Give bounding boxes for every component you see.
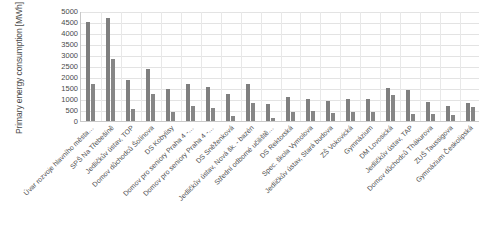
bar xyxy=(271,118,275,121)
bar xyxy=(411,114,415,121)
bar-group xyxy=(81,12,101,121)
bar-group xyxy=(101,12,121,121)
bar xyxy=(246,84,250,121)
y-tick-label: 1500 xyxy=(46,85,78,93)
bar xyxy=(451,115,455,121)
bar xyxy=(91,84,95,121)
bar-group xyxy=(380,12,400,121)
x-axis-tick-labels: Úvar rozvoje hlavního města…SPŠ Na Třebe… xyxy=(80,124,479,244)
bar xyxy=(151,94,155,122)
bar xyxy=(466,103,470,121)
bar xyxy=(391,95,395,121)
bar xyxy=(326,101,330,121)
bar-group xyxy=(460,12,480,121)
bar-group xyxy=(440,12,460,121)
bar xyxy=(146,69,150,121)
bar xyxy=(371,112,375,121)
y-axis-title: Primary energy consumption [MWh] xyxy=(14,4,24,134)
bar-group xyxy=(221,12,241,121)
bar xyxy=(266,104,270,121)
bar xyxy=(191,106,195,121)
bar xyxy=(331,113,335,121)
y-tick-label: 2500 xyxy=(46,63,78,71)
bar xyxy=(471,107,475,121)
y-tick-label: 2000 xyxy=(46,74,78,82)
y-tick-label: 500 xyxy=(46,107,78,115)
bar-group xyxy=(261,12,281,121)
y-tick-label: 4500 xyxy=(46,19,78,27)
y-tick-label: 4000 xyxy=(46,30,78,38)
bar xyxy=(106,18,110,121)
bar xyxy=(206,87,210,121)
y-tick-label: 1000 xyxy=(46,96,78,104)
bar-series-container xyxy=(81,12,479,121)
bar xyxy=(346,99,350,121)
bar xyxy=(166,89,170,121)
bar xyxy=(306,99,310,121)
y-tick-label: 0 xyxy=(46,118,78,126)
y-tick-label: 5000 xyxy=(46,8,78,16)
plot-area: 5000450040003500300025002000150010005000 xyxy=(80,12,479,122)
bar xyxy=(426,102,430,121)
bar xyxy=(231,116,235,122)
bar-group xyxy=(121,12,141,121)
bar-chart: Primary energy consumption [MWh] 5000450… xyxy=(0,0,491,246)
bar-group xyxy=(141,12,161,121)
bar xyxy=(171,112,175,121)
bar-group xyxy=(281,12,301,121)
bar xyxy=(386,88,390,121)
bar xyxy=(431,114,435,121)
bar xyxy=(251,103,255,121)
y-tick-label: 3500 xyxy=(46,41,78,49)
y-tick-label: 3000 xyxy=(46,52,78,60)
bar xyxy=(311,111,315,121)
bar-group xyxy=(320,12,340,121)
bar-group xyxy=(300,12,320,121)
bar-group xyxy=(400,12,420,121)
bar xyxy=(131,109,135,121)
bar xyxy=(186,84,190,121)
bar xyxy=(366,99,370,121)
bar-group xyxy=(340,12,360,121)
bar-group xyxy=(420,12,440,121)
bar-group xyxy=(360,12,380,121)
bar xyxy=(86,22,90,121)
bar xyxy=(211,108,215,121)
bar xyxy=(351,112,355,121)
bar-group xyxy=(161,12,181,121)
bar xyxy=(126,80,130,121)
bar xyxy=(291,112,295,121)
bar-group xyxy=(181,12,201,121)
bar-group xyxy=(241,12,261,121)
bar xyxy=(226,94,230,122)
bar xyxy=(406,90,410,121)
bar-group xyxy=(201,12,221,121)
bar xyxy=(446,106,450,121)
bar xyxy=(111,59,115,121)
bar xyxy=(286,97,290,121)
